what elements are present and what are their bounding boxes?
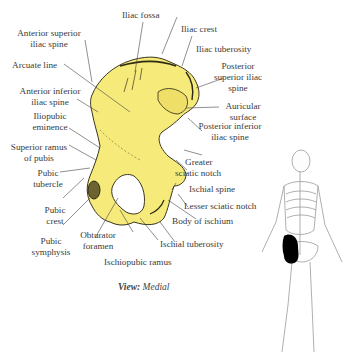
label-ischial-tuberosity: Ischial tuberosity — [160, 239, 224, 250]
label-posterior-superior-iliac-spine: Posterior superior iliac spine — [208, 61, 268, 94]
highlighted-hip-bone — [283, 234, 299, 263]
label-anterior-superior-iliac-spine: Anterior superior iliac spine — [12, 28, 86, 50]
label-superior-ramus-of-pubis: Superior ramus of pubis — [6, 142, 72, 164]
skeleton-figure — [262, 150, 342, 352]
label-anterior-inferior-iliac-spine: Anterior inferior iliac spine — [14, 86, 86, 108]
label-iliopubic-eminence: Iliopubic eminence — [26, 111, 74, 133]
label-body-of-ischium: Body of ischium — [172, 216, 233, 227]
label-pubic-symphysis: Pubic symphysis — [28, 236, 74, 258]
label-pubic-tubercle: Pubic tubercle — [28, 168, 68, 190]
label-greater-sciatic-notch: Greater sciatic notch — [175, 157, 221, 179]
label-pubic-crest: Pubic crest — [40, 205, 70, 227]
label-ischiopubic-ramus: Ischiopubic ramus — [104, 257, 172, 268]
label-lesser-sciatic-notch: Lesser sciatic notch — [184, 201, 256, 212]
hip-bone-diagram: Iliac fossa Iliac crest Iliac tuberosity… — [0, 0, 359, 361]
label-auricular-surface: Auricular surface — [220, 101, 266, 123]
label-iliac-tuberosity: Iliac tuberosity — [196, 44, 251, 55]
label-obturator-foramen: Obturator foramen — [76, 230, 120, 252]
label-iliac-fossa: Iliac fossa — [122, 10, 160, 21]
label-iliac-crest: Iliac crest — [181, 24, 217, 35]
label-ischial-spine: Ischial spine — [189, 184, 235, 195]
label-posterior-inferior-iliac-spine: Posterior inferior iliac spine — [192, 121, 268, 143]
view-caption: View: Medial — [118, 282, 169, 292]
label-arcuate-line: Arcuate line — [12, 60, 57, 71]
